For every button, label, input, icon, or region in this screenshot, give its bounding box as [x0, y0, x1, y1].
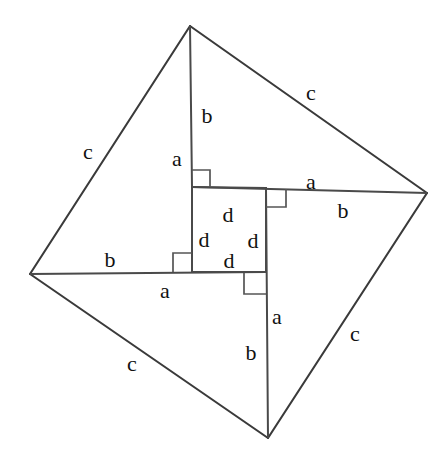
- label-b-lower: b: [246, 342, 257, 364]
- right-angle-marker-bottom-left-icon: [173, 253, 192, 272]
- label-b-left: b: [105, 249, 116, 271]
- label-d-right: d: [248, 230, 259, 252]
- label-d-bottom: d: [224, 250, 235, 272]
- label-c-top-left: c: [83, 141, 93, 163]
- right-angle-marker-top-right-icon: [266, 189, 286, 207]
- label-d-left: d: [199, 229, 210, 251]
- label-a-left: a: [160, 280, 170, 302]
- label-d-top: d: [223, 204, 234, 226]
- label-a-right: a: [306, 171, 316, 193]
- outer-edge-bottom-left: [30, 274, 268, 438]
- label-a-lower: a: [272, 306, 282, 328]
- label-c-top-right: c: [306, 82, 316, 104]
- label-b-right: b: [338, 200, 349, 222]
- figure-canvas: [0, 0, 448, 466]
- outer-edge-top-left: [30, 26, 190, 274]
- label-b-upper: b: [202, 105, 213, 127]
- inner-square-top-edge: [192, 187, 266, 188]
- label-a-upper: a: [172, 148, 182, 170]
- label-c-bottom-right: c: [350, 323, 360, 345]
- outer-edge-top-right: [190, 26, 427, 193]
- outer-edge-bottom-right: [268, 193, 427, 438]
- label-c-bottom-left: c: [127, 353, 137, 375]
- right-angle-marker-bottom-right-icon: [244, 273, 266, 294]
- geometry-figure: c c c c b a a b b a a b d d d d: [0, 0, 448, 466]
- cevian-top-vertical: [190, 26, 192, 187]
- right-angle-marker-top-left-icon: [192, 170, 210, 187]
